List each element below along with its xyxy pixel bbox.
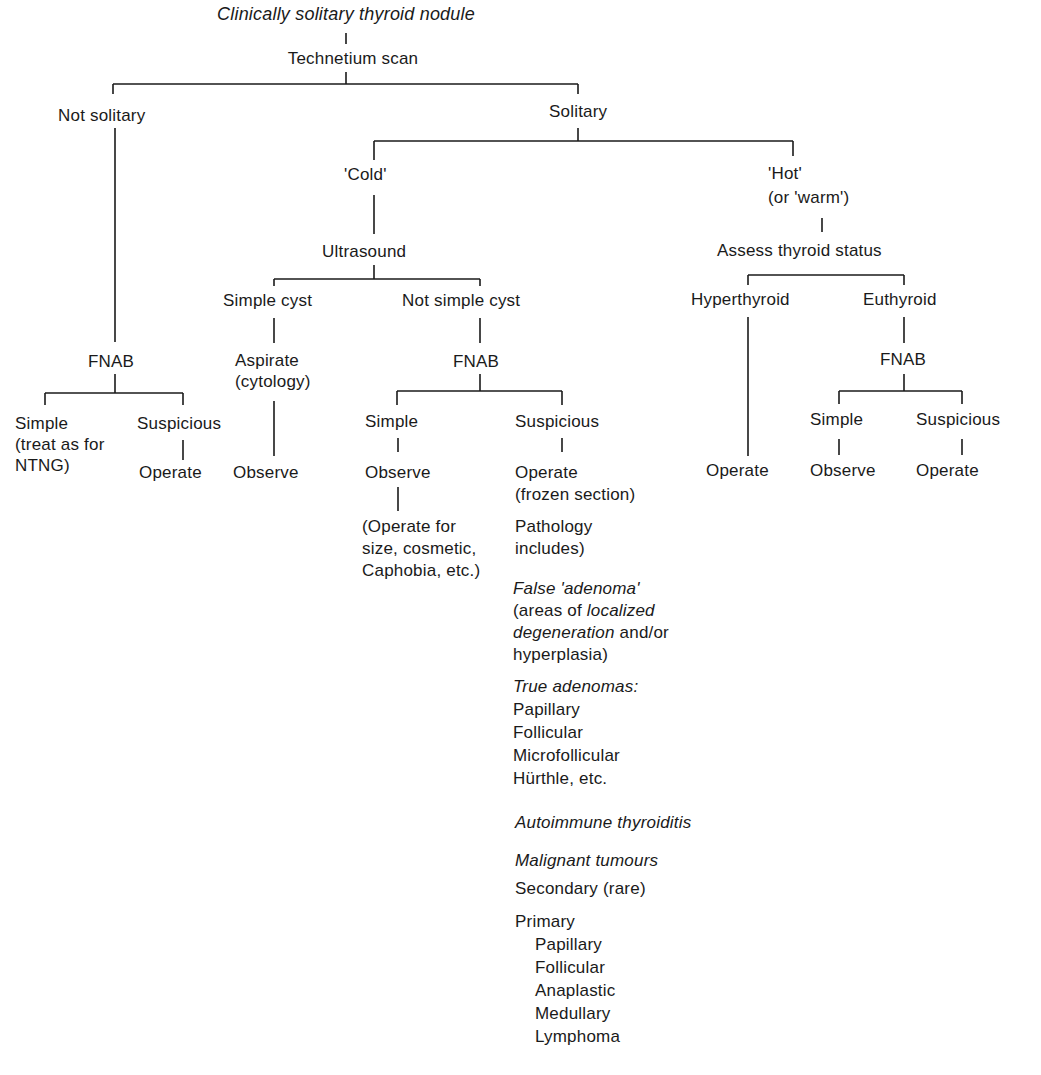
- node-simple-cold: Simple: [365, 411, 418, 432]
- node-technetium-scan: Technetium scan: [288, 48, 419, 69]
- node-operate-euthyroid: Operate: [916, 460, 979, 481]
- node-pathology-includes: Pathology includes): [515, 516, 592, 560]
- node-observe-cold: Observe: [365, 462, 431, 483]
- node-fnab-not-solitary: FNAB: [88, 351, 134, 372]
- node-fnab-not-simple-cyst: FNAB: [453, 351, 499, 372]
- pathology-malignant-tumours: Malignant tumours Secondary (rare): [515, 847, 658, 903]
- node-suspicious-euthyroid: Suspicious: [916, 409, 1000, 430]
- pathology-false-adenoma: False 'adenoma' (areas of localized dege…: [513, 578, 669, 666]
- node-euthyroid: Euthyroid: [863, 289, 937, 310]
- node-hyperthyroid: Hyperthyroid: [691, 289, 790, 310]
- pathology-true-adenomas: True adenomas: Papillary Follicular Micr…: [513, 675, 638, 790]
- pathology-primary-malignant: Primary Papillary Follicular Anaplastic …: [515, 910, 620, 1048]
- node-simple-not-solitary: Simple (treat as for NTNG): [15, 413, 105, 476]
- node-not-solitary: Not solitary: [58, 105, 145, 126]
- node-suspicious-cold: Suspicious: [515, 411, 599, 432]
- node-observe-euthyroid: Observe: [810, 460, 876, 481]
- node-operate-hyperthyroid: Operate: [706, 460, 769, 481]
- node-ultrasound: Ultrasound: [322, 241, 406, 262]
- root-node-title: Clinically solitary thyroid nodule: [217, 4, 475, 25]
- node-aspirate: Aspirate (cytology): [235, 350, 311, 392]
- node-assess-thyroid-status: Assess thyroid status: [717, 240, 882, 261]
- node-operate-frozen-section: Operate (frozen section): [515, 462, 635, 506]
- node-observe-simple-cyst: Observe: [233, 462, 299, 483]
- node-simple-cyst: Simple cyst: [223, 290, 312, 311]
- node-suspicious-not-solitary: Suspicious: [137, 413, 221, 434]
- node-operate-for-size-note: (Operate for size, cosmetic, Caphobia, e…: [362, 516, 480, 582]
- node-cold: 'Cold': [344, 164, 387, 185]
- node-fnab-euthyroid: FNAB: [880, 349, 926, 370]
- pathology-autoimmune-thyroiditis: Autoimmune thyroiditis: [515, 812, 691, 833]
- node-hot-or-warm: 'Hot' (or 'warm'): [768, 162, 849, 210]
- node-solitary: Solitary: [549, 101, 607, 122]
- node-operate-not-solitary: Operate: [139, 462, 202, 483]
- node-simple-euthyroid: Simple: [810, 409, 863, 430]
- node-not-simple-cyst: Not simple cyst: [402, 290, 520, 311]
- thyroid-nodule-flowchart: Clinically solitary thyroid nodule Techn…: [0, 0, 1041, 1075]
